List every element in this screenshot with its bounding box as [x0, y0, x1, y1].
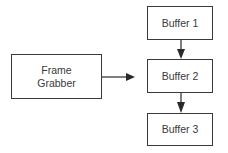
- node-buffer-2: Buffer 2: [147, 59, 213, 93]
- node-buffer-1-label: Buffer 1: [162, 17, 199, 30]
- arrow-frame-grabber-to-buffer2: [101, 73, 135, 81]
- node-buffer-3: Buffer 3: [147, 113, 213, 146]
- arrow-buffer2-to-buffer3: [177, 93, 185, 113]
- node-frame-grabber-label: Frame Grabber: [37, 64, 76, 90]
- node-frame-grabber: Frame Grabber: [11, 54, 102, 99]
- arrow-buffer1-to-buffer2: [177, 40, 185, 59]
- node-buffer-2-label: Buffer 2: [162, 70, 199, 83]
- node-buffer-3-label: Buffer 3: [162, 123, 199, 136]
- flowchart-diagram: Frame Grabber Buffer 1 Buffer 2 Buffer 3: [0, 0, 228, 153]
- node-buffer-1: Buffer 1: [147, 6, 213, 40]
